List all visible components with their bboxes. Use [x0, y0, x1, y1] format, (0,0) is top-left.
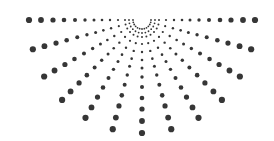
dot	[149, 50, 151, 52]
dot	[141, 32, 143, 34]
dot	[202, 80, 207, 85]
dot	[64, 38, 69, 43]
dot	[207, 57, 212, 62]
dot	[207, 18, 211, 22]
dot	[141, 59, 144, 62]
dot	[101, 85, 106, 90]
dot	[129, 31, 131, 33]
dot	[151, 57, 154, 60]
dot	[168, 126, 174, 132]
dot	[147, 42, 149, 44]
dot	[123, 83, 127, 87]
dot	[154, 22, 156, 24]
dot	[150, 34, 152, 36]
dot	[89, 105, 95, 111]
dot	[157, 47, 159, 49]
dot	[130, 57, 133, 60]
dot	[41, 73, 47, 79]
dot	[195, 33, 198, 36]
dot	[30, 46, 36, 52]
dot	[75, 35, 79, 39]
dot	[160, 93, 165, 98]
dot	[174, 76, 178, 80]
dot	[125, 23, 127, 25]
dot	[218, 18, 223, 23]
dot	[162, 103, 167, 108]
dot	[150, 19, 152, 21]
dot	[139, 106, 144, 111]
dot	[53, 40, 58, 45]
dot	[205, 35, 209, 39]
dot	[240, 17, 246, 23]
dot	[132, 28, 134, 30]
dot-pattern	[26, 17, 258, 136]
dot	[155, 73, 158, 76]
dot	[198, 52, 202, 56]
dot	[137, 35, 139, 37]
dot	[190, 105, 196, 111]
dot	[117, 60, 120, 63]
dot	[109, 19, 111, 21]
dot	[169, 47, 172, 50]
dot	[135, 30, 137, 32]
dot	[181, 59, 184, 62]
dot	[143, 28, 145, 30]
dot	[187, 31, 190, 34]
dot	[190, 47, 193, 50]
dot	[237, 43, 243, 49]
dot	[125, 47, 127, 49]
dot	[110, 27, 112, 29]
dot	[110, 126, 116, 132]
dot	[165, 115, 171, 121]
dot	[141, 36, 143, 38]
dot	[184, 94, 189, 99]
dot	[215, 38, 220, 43]
dot	[82, 115, 88, 121]
dot	[195, 73, 200, 78]
dot	[126, 73, 129, 76]
dot	[83, 18, 86, 21]
dot	[146, 27, 148, 29]
dot	[148, 30, 150, 32]
dot	[133, 50, 135, 52]
dot	[118, 41, 120, 43]
dot	[211, 89, 217, 95]
dot	[26, 17, 32, 23]
dot	[129, 22, 131, 24]
dot	[139, 118, 145, 124]
dot	[133, 34, 135, 36]
dot	[124, 19, 126, 21]
dot	[164, 25, 166, 27]
dot	[128, 19, 130, 21]
dot	[237, 73, 243, 79]
dot	[138, 32, 140, 34]
dot	[153, 31, 155, 33]
dot	[135, 25, 137, 27]
dot	[124, 36, 126, 38]
dot	[113, 115, 119, 121]
dot	[91, 47, 94, 50]
dot	[82, 52, 86, 56]
dot	[162, 31, 164, 33]
dot	[106, 39, 109, 42]
dot	[132, 21, 134, 23]
dot	[135, 42, 137, 44]
dot	[187, 65, 191, 69]
dot	[133, 24, 135, 26]
dot	[189, 19, 192, 22]
dot	[120, 93, 125, 98]
dot	[181, 19, 184, 22]
dot	[141, 51, 143, 53]
dot	[179, 85, 184, 90]
dot	[113, 35, 115, 37]
dot	[197, 18, 200, 21]
dot	[95, 94, 100, 99]
dot	[182, 43, 185, 46]
dot	[94, 31, 97, 34]
dot	[68, 89, 74, 95]
dot	[147, 25, 149, 27]
dot	[120, 31, 122, 33]
dot	[126, 28, 128, 30]
dot	[139, 28, 141, 30]
dot	[42, 43, 48, 49]
